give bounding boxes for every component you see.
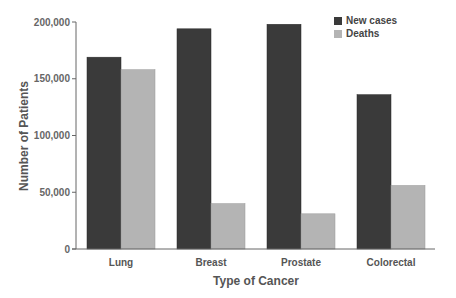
bar-colorectal-new-cases bbox=[357, 95, 391, 249]
x-tick-label: Prostate bbox=[281, 257, 321, 268]
y-ticks: 050,000100,000150,000200,000 bbox=[34, 17, 76, 255]
bar-lung-new-cases bbox=[87, 57, 121, 249]
x-axis-title: Type of Cancer bbox=[213, 274, 299, 288]
y-tick-label: 200,000 bbox=[34, 17, 71, 28]
bar-prostate-deaths bbox=[301, 214, 335, 249]
y-tick-label: 150,000 bbox=[34, 73, 71, 84]
legend-item-new-cases: New cases bbox=[334, 14, 397, 27]
bar-lung-deaths bbox=[121, 70, 155, 249]
legend-swatch-new-cases bbox=[334, 17, 342, 25]
x-tick-label: Colorectal bbox=[367, 257, 416, 268]
legend-label: New cases bbox=[346, 15, 397, 26]
legend-item-deaths: Deaths bbox=[334, 27, 397, 40]
y-tick-label: 100,000 bbox=[34, 130, 71, 141]
legend-label: Deaths bbox=[346, 28, 379, 39]
y-axis-title: Number of Patients bbox=[17, 81, 31, 191]
y-tick-label: 0 bbox=[64, 244, 70, 255]
bar-chart: 050,000100,000150,000200,000 LungBreastP… bbox=[0, 0, 456, 298]
y-tick-label: 50,000 bbox=[39, 187, 70, 198]
legend-swatch-deaths bbox=[334, 30, 342, 38]
bar-colorectal-deaths bbox=[391, 185, 425, 249]
x-tick-label: Breast bbox=[195, 257, 227, 268]
bar-breast-deaths bbox=[211, 204, 245, 249]
x-tick-labels: LungBreastProstateColorectal bbox=[109, 257, 416, 268]
legend: New cases Deaths bbox=[334, 14, 397, 40]
bars-group bbox=[87, 24, 425, 249]
bar-prostate-new-cases bbox=[267, 24, 301, 249]
x-tick-label: Lung bbox=[109, 257, 133, 268]
bar-breast-new-cases bbox=[177, 29, 211, 249]
